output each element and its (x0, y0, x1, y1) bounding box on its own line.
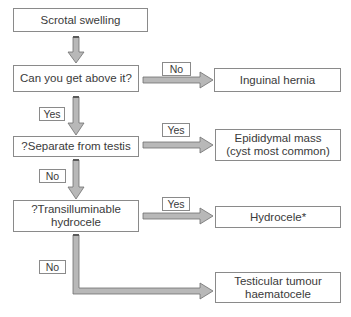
edge-label-q3-no: No (39, 260, 66, 274)
arrow-elbow-icon (73, 235, 213, 299)
node-scrotal-swelling: Scrotal swelling (13, 8, 148, 32)
edge-label-q3-yes: Yes (162, 197, 190, 211)
node-can-you-get-above: Can you get above it? (13, 65, 139, 92)
arrow-down-icon (68, 160, 84, 199)
arrow-right-icon (143, 137, 213, 153)
node-testicular-tumour: Testicular tumour haematocele (215, 272, 341, 303)
arrow-down-icon (68, 37, 84, 63)
node-hydrocele: Hydrocele* (215, 206, 341, 228)
node-separate-from-testis: ?Separate from testis (13, 136, 139, 157)
node-epididymal-mass: Epididymal mass (cyst most common) (215, 129, 341, 161)
node-inguinal-hernia: Inguinal hernia (214, 68, 341, 92)
edge-label-q1-no: No (162, 62, 191, 76)
arrow-down-icon (68, 97, 84, 135)
node-transilluminable: ?Transilluminable hydrocele (13, 200, 139, 232)
edge-label-q1-yes: Yes (39, 107, 65, 121)
edge-label-q2-no: No (39, 169, 66, 183)
edge-label-q2-yes: Yes (162, 123, 190, 137)
